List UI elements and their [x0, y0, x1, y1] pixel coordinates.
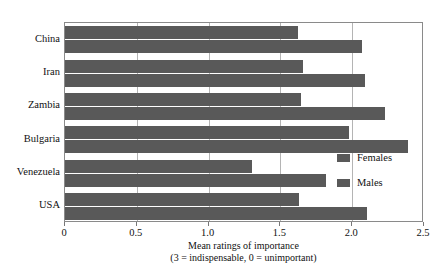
x-tick-mark [64, 222, 65, 226]
x-tick-label: 0 [61, 227, 66, 239]
x-axis-ticks: 00.51.01.52.02.5 [64, 222, 423, 240]
bar-zambia-males [65, 107, 385, 120]
bar-china-females [65, 26, 298, 39]
legend-label-females: Females [357, 152, 392, 163]
y-axis-label-4: Venezuela [0, 166, 60, 177]
legend-swatch-icon-males [337, 179, 350, 187]
x-tick-mark [136, 222, 137, 226]
bar-bulgaria-females [65, 126, 349, 139]
x-tick-label: 2.0 [345, 227, 358, 239]
x-tick-label: 2.5 [416, 227, 429, 239]
y-axis-label-2: Zambia [0, 99, 60, 110]
y-axis-label-1: Iran [0, 66, 60, 77]
legend-label-males: Males [357, 177, 383, 188]
bar-iran-males [65, 74, 365, 87]
legend-swatch-icon-females [337, 154, 350, 162]
x-axis-title-line1: Mean ratings of importance [64, 240, 423, 252]
x-tick-mark [279, 222, 280, 226]
y-axis-label-3: Bulgaria [0, 133, 60, 144]
bar-venezuela-females [65, 160, 252, 173]
bar-china-males [65, 40, 362, 53]
x-tick-mark [351, 222, 352, 226]
x-tick-mark [208, 222, 209, 226]
y-axis-label-0: China [0, 33, 60, 44]
bar-zambia-females [65, 93, 301, 106]
bar-iran-females [65, 60, 303, 73]
legend-item-females: Females [337, 152, 421, 163]
legend-item-males: Males [337, 177, 421, 188]
y-axis-category-labels: China Iran Zambia Bulgaria Venezuela USA [0, 22, 60, 222]
x-axis-title-line2: (3 = indispensable, 0 = unimportant) [64, 252, 423, 264]
x-axis-title: Mean ratings of importance (3 = indispen… [64, 240, 423, 263]
legend: Females Males [337, 152, 421, 202]
x-tick-mark [423, 222, 424, 226]
bar-usa-males [65, 207, 367, 220]
bar-venezuela-males [65, 174, 326, 187]
x-tick-label: 1.0 [201, 227, 214, 239]
bar-usa-females [65, 193, 299, 206]
x-tick-label: 1.5 [273, 227, 286, 239]
x-tick-label: 0.5 [129, 227, 142, 239]
bar-chart: China Iran Zambia Bulgaria Venezuela USA… [0, 0, 446, 277]
y-axis-label-5: USA [0, 199, 60, 210]
